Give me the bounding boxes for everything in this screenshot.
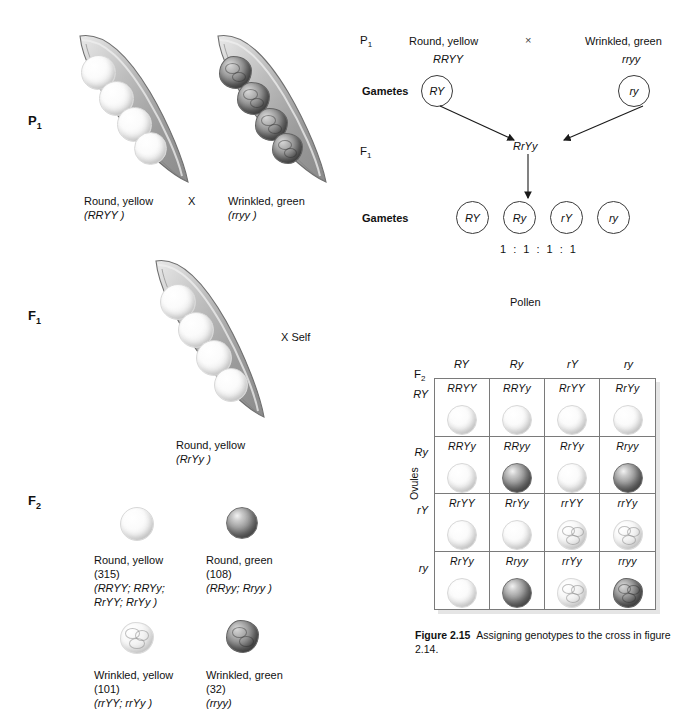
punnett-cell: rryy: [600, 552, 655, 610]
punnett-stage-label-f2: F2: [414, 368, 425, 383]
p1-left-genotype: (RRYY ): [84, 208, 124, 222]
punnett-cell-seed-round-yellow: [502, 520, 532, 550]
punnett-cell: rrYy: [545, 552, 600, 610]
punnett-cell-genotype: RrYy: [600, 382, 655, 394]
punnett-cell: Rryy: [600, 437, 655, 495]
cross-parent-left-phenotype: Round, yellow: [409, 34, 478, 48]
punnett-cell: RRyy: [490, 437, 545, 495]
gamete-circle-f1-rY: rY: [550, 201, 583, 234]
stage-label-p1: P1: [28, 113, 42, 131]
punnett-cell-seed-round-green: [613, 463, 643, 493]
punnett-cell-seed-round-yellow: [557, 463, 587, 493]
punnett-row-header-ry: ry: [400, 562, 428, 574]
f2-seed-wrinkled-green: [226, 620, 259, 653]
punnett-cell: rrYy: [600, 494, 655, 552]
seed-round-yellow: [134, 132, 167, 165]
f1-to-gametes-arrow: [522, 154, 536, 206]
p1-right-genotype: (rryy ): [228, 208, 257, 222]
cross-stage-label-p1: P1: [360, 34, 372, 49]
punnett-cell-genotype: RRyy: [490, 440, 544, 452]
figure-caption: Figure 2.15 Assigning genotypes to the c…: [415, 628, 677, 656]
cross-symbol: ×: [525, 33, 531, 47]
figure-number: Figure 2.15: [415, 629, 470, 641]
punnett-cell: Rryy: [490, 552, 545, 610]
punnett-cell: RrYy: [490, 494, 545, 552]
cross-parent-right-genotype: rryy: [622, 52, 640, 66]
punnett-cell-genotype: RrYy: [490, 497, 544, 509]
punnett-col-header-RY: RY: [434, 358, 489, 370]
punnett-cell-genotype: rrYY: [545, 497, 599, 509]
ovules-axis-label: Ovules: [408, 467, 420, 500]
punnett-cell-genotype: RrYY: [435, 497, 489, 509]
punnett-cell: RRYY: [435, 379, 490, 437]
punnett-square: RRYYRRYyRrYYRrYyRRYyRRyyRrYyRryyRrYYRrYy…: [434, 378, 656, 610]
f2-class-phenotype: Wrinkled, yellow: [94, 668, 173, 682]
punnett-row-header-Ry: Ry: [400, 446, 428, 458]
punnett-cell-genotype: RRYy: [435, 440, 489, 452]
f2-class-count: (101): [94, 682, 120, 696]
punnett-row-header-rY: rY: [400, 504, 428, 516]
punnett-cell-genotype: RrYy: [435, 555, 489, 567]
f1-phenotype: Round, yellow: [176, 438, 245, 452]
f1-genotype: (RrYy ): [176, 452, 211, 466]
punnett-cell: RRYy: [435, 437, 490, 495]
cross-parent-left-genotype: RRYY: [433, 52, 463, 66]
gamete-ratio: 1 : 1 : 1 : 1: [500, 243, 578, 255]
p1-right-phenotype: Wrinkled, green: [228, 194, 305, 208]
punnett-cell-seed-round-yellow: [502, 405, 532, 435]
p1-left-phenotype: Round, yellow: [84, 194, 153, 208]
gametes-label-f1: Gametes: [362, 211, 408, 225]
f1-self-cross-label: X Self: [281, 330, 310, 344]
gametes-label-p1: Gametes: [362, 84, 408, 98]
punnett-cell-seed-wrinkled-yellow: [557, 520, 587, 550]
gamete-circle-f1-ry: ry: [597, 201, 630, 234]
stage-label-f2: F2: [28, 493, 41, 511]
punnett-row-header-RY: RY: [400, 388, 428, 400]
punnett-cell: RrYY: [435, 494, 490, 552]
punnett-cell-genotype: rryy: [600, 555, 655, 567]
f2-seed-round-green: [226, 507, 258, 539]
punnett-cell-genotype: RRYY: [435, 382, 489, 394]
f2-class-genotypes: (RRYY; RRYy;: [94, 581, 165, 595]
f2-class-count: (315): [94, 567, 120, 581]
punnett-cell-seed-round-yellow: [557, 405, 587, 435]
p1-cross-symbol: X: [188, 194, 195, 208]
punnett-cell-seed-wrinkled-yellow: [613, 520, 643, 550]
punnett-cell-genotype: rrYy: [545, 555, 599, 567]
pollen-axis-label: Pollen: [510, 295, 541, 309]
punnett-cell-genotype: Rryy: [490, 555, 544, 567]
punnett-cell-seed-round-yellow: [447, 405, 477, 435]
punnett-cell-seed-round-yellow: [447, 520, 477, 550]
f2-class-genotypes: (rrYY; rrYy ): [94, 696, 152, 710]
seed-round-yellow: [214, 368, 248, 402]
punnett-cell-seed-wrinkled-green: [613, 578, 643, 608]
punnett-cell-genotype: RrYY: [545, 382, 599, 394]
f2-class-phenotype: Round, yellow: [94, 553, 163, 567]
punnett-cell-seed-round-yellow: [447, 578, 477, 608]
punnett-cell-seed-round-yellow: [447, 463, 477, 493]
f2-class-count: (32): [206, 682, 226, 696]
stage-label-f1: F1: [28, 308, 41, 326]
f2-class-count: (108): [206, 567, 232, 581]
cross-parent-right-phenotype: Wrinkled, green: [585, 34, 662, 48]
f2-class-genotypes: (RRyy; Rryy ): [206, 581, 272, 595]
gamete-circle-f1-Ry: Ry: [503, 201, 536, 234]
punnett-cell: RrYy: [435, 552, 490, 610]
punnett-cell-genotype: Rryy: [600, 440, 655, 452]
f2-seed-wrinkled-yellow: [120, 622, 154, 654]
f1-genotype-cross: RrYy: [513, 139, 537, 153]
punnett-cell: RrYy: [600, 379, 655, 437]
punnett-cell-genotype: rrYy: [600, 497, 655, 509]
f2-class-phenotype: Wrinkled, green: [206, 668, 283, 682]
cross-arrows: [430, 100, 660, 155]
punnett-cell-genotype: RrYy: [545, 440, 599, 452]
punnett-cell: RRYy: [490, 379, 545, 437]
punnett-cell: RrYy: [545, 437, 600, 495]
gamete-circle-f1-RY: RY: [456, 201, 489, 234]
cross-stage-label-f1: F1: [360, 145, 371, 160]
punnett-col-header-rY: rY: [545, 358, 600, 370]
punnett-cell: rrYY: [545, 494, 600, 552]
punnett-cell-seed-round-yellow: [613, 405, 643, 435]
punnett-cell-seed-wrinkled-yellow: [557, 578, 587, 608]
f2-seed-round-yellow: [120, 507, 154, 541]
